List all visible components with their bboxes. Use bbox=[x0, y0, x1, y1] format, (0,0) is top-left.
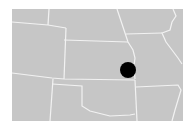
location-marker bbox=[120, 62, 136, 78]
map bbox=[0, 0, 191, 129]
map-land bbox=[12, 9, 183, 121]
